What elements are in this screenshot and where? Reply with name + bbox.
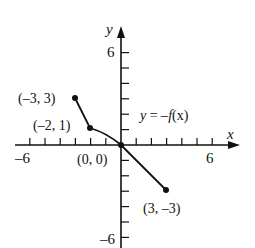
x-tick-label-max: 6 [206, 150, 214, 166]
annotation-3-neg3: (3, –3) [143, 201, 181, 217]
x-tick-label-min: –6 [14, 150, 31, 166]
point-neg3-3 [72, 95, 78, 101]
y-tick-label-max: 6 [107, 44, 115, 60]
annotation-neg2-1: (–2, 1) [33, 118, 71, 134]
y-tick-label-min: –6 [99, 231, 116, 247]
graph: x y –6 6 6 –6 (–3, 3) (–2, 1) (0, 0) (3,… [0, 0, 255, 248]
point-3-neg3 [163, 187, 169, 193]
curve-label: y = –f(x) [138, 108, 189, 124]
point-neg2-1 [87, 125, 93, 131]
x-axis [15, 138, 240, 149]
annotation-origin: (0, 0) [77, 152, 108, 168]
x-axis-arrow-icon [228, 141, 240, 149]
point-origin [118, 142, 124, 148]
x-axis-label: x [226, 126, 234, 142]
y-axis-arrow-icon [117, 26, 125, 38]
y-axis [117, 26, 129, 248]
y-axis-label: y [104, 21, 113, 37]
annotation-neg3-3: (–3, 3) [18, 91, 56, 107]
